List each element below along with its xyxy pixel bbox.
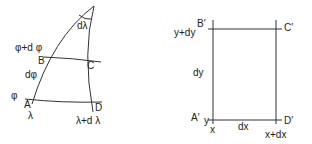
diagram-canvas: dλ φ+d φ B C dφ φ A D λ λ+d λ B′ y+dy C′… [0, 0, 312, 144]
label-C-prime: C′ [284, 22, 293, 33]
label-B-prime: B′ [197, 18, 206, 29]
meridian-right [88, 6, 94, 112]
label-dx: dx [238, 121, 249, 132]
plane-element: B′ y+dy C′ dy A′ y D′ x dx x+dx [174, 18, 293, 140]
label-y-plus-dy: y+dy [174, 27, 195, 38]
label-phi: φ [11, 90, 18, 101]
label-dlambda: dλ [77, 20, 88, 31]
label-lambda-plus-dlambda: λ+d λ [76, 115, 100, 126]
label-x: x [210, 124, 215, 135]
label-D: D [95, 102, 102, 113]
label-B: B [38, 55, 45, 66]
label-lambda: λ [28, 110, 33, 121]
label-phi-plus-dphi: φ+d φ [15, 42, 43, 53]
spherical-element: dλ φ+d φ B C dφ φ A D λ λ+d λ [11, 6, 102, 126]
label-dphi: dφ [25, 69, 38, 80]
label-C: C [87, 60, 94, 71]
label-dy: dy [193, 67, 204, 78]
label-y: y [204, 115, 209, 126]
label-x-plus-dx: x+dx [265, 129, 286, 140]
label-A: A [24, 99, 31, 110]
label-A-prime: A′ [191, 112, 200, 123]
label-D-prime: D′ [284, 115, 293, 126]
